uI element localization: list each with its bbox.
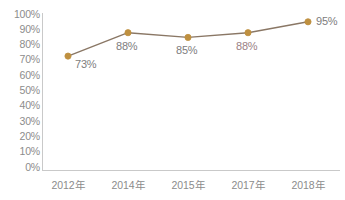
data-point-2012年 [65, 53, 71, 59]
x-axis-tick-labels: 2012年 2014年 2015年 2017年 2018年 [0, 177, 345, 195]
data-label-2018: 95% [316, 15, 337, 27]
x-axis-tick-2018: 2018年 [292, 177, 325, 192]
data-label-2015: 85% [176, 44, 197, 56]
data-label-2012: 73% [75, 58, 96, 70]
line-series-svg [0, 0, 345, 200]
data-label-2014: 88% [116, 40, 137, 52]
x-axis-tick-2014: 2014年 [112, 177, 145, 192]
chart-screenshot: 100% 90% 80% 70% 60% 50% 40% 30% 20% 10%… [0, 0, 345, 200]
data-point-2017年 [245, 30, 251, 36]
x-axis-tick-2017: 2017年 [232, 177, 265, 192]
data-point-2018年 [305, 19, 311, 25]
data-point-2015年 [185, 34, 191, 40]
x-axis-tick-2015: 2015年 [172, 177, 205, 192]
data-point-2014年 [125, 30, 131, 36]
x-axis-tick-2012: 2012年 [52, 177, 85, 192]
data-label-2017: 88% [236, 40, 257, 52]
